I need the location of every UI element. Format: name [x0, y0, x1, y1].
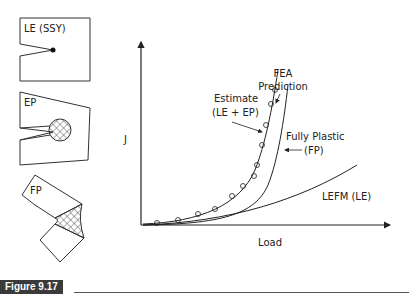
fully-plastic-label-line1: Fully Plastic: [286, 131, 345, 142]
panel-label-le-ssy: LE (SSY): [24, 23, 66, 34]
figure-canvas: LE (SSY) EP FP J Load FEA Predi: [0, 0, 409, 300]
crack-tip-dot-icon: [51, 48, 56, 53]
panel-fp: FP: [22, 175, 84, 262]
panel-le-ssy: LE (SSY): [20, 18, 90, 81]
fea-arrow: [276, 94, 280, 103]
y-axis-label: J: [123, 134, 127, 145]
figure-caption: Figure 9.17: [0, 280, 63, 294]
fea-label-line2: Prediction: [258, 81, 308, 92]
estimate-arrow: [232, 122, 262, 132]
fully-plastic-label-line2: (FP): [304, 145, 324, 156]
fea-label-line1: FEA: [274, 68, 293, 79]
chart-annotations: FEA Prediction Estimate (LE + EP) Fully …: [212, 68, 371, 202]
plastic-zone-icon: [49, 119, 71, 141]
fully-plastic-curve: [143, 85, 288, 225]
lefm-label: LEFM (LE): [322, 191, 371, 202]
estimate-label-line1: Estimate: [214, 93, 258, 104]
panel-ep: EP: [20, 92, 90, 165]
chart-axes: J Load: [123, 42, 390, 248]
caption-rule: [74, 292, 409, 293]
estimate-label-line2: (LE + EP): [212, 107, 259, 118]
panel-label-fp: FP: [30, 185, 42, 196]
x-axis-label: Load: [258, 237, 282, 248]
fully-plastic-zone-icon: [55, 204, 84, 238]
panel-label-ep: EP: [24, 97, 36, 108]
